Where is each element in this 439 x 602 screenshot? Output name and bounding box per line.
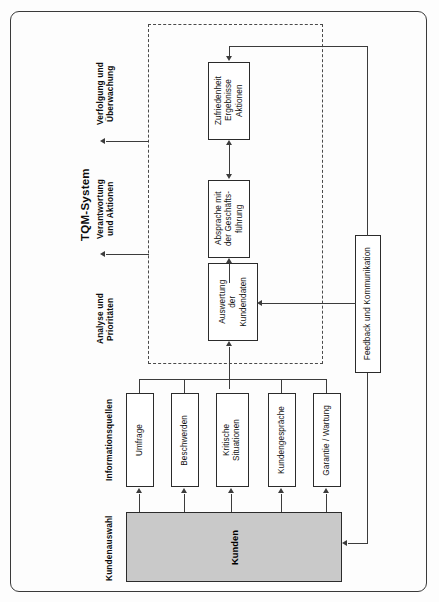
connector-out-verantwortung: [106, 254, 149, 255]
source-box-kundengespraeche[interactable]: Kundengespräche: [268, 393, 296, 487]
source-box-garantie-wartung-label: Garantie / Wartung: [322, 405, 332, 476]
connector-feedback-up: [367, 46, 368, 236]
connector-feedback-top-horizontal: [229, 46, 368, 47]
caption-analyse: Analyse und Prioritäten: [95, 278, 116, 360]
source-box-beschwerden[interactable]: Beschwerden: [171, 393, 199, 487]
arrowhead-left-auswertung: [257, 300, 262, 306]
connector-kunden-kritische: [231, 494, 232, 512]
connector-absprache-zufriedenheit: [229, 145, 230, 177]
source-box-umfrage[interactable]: Umfrage: [126, 393, 154, 487]
process-box-absprache[interactable]: Absprache mit der Geschäfts- führung: [208, 180, 250, 258]
connector-kunden-kundengespraeche: [281, 494, 282, 512]
process-box-absprache-label: Absprache mit der Geschäfts- führung: [214, 191, 245, 246]
arrowhead-left-verantwortung: [100, 251, 105, 257]
process-box-zufriedenheit[interactable]: Zufriedenheit Ergebnisse Aktionen: [208, 62, 250, 140]
arrowhead-up-zufriedenheit: [226, 140, 232, 145]
connector-source-bus: [139, 379, 327, 380]
customer-box-kunden[interactable]: Kunden: [126, 512, 342, 582]
feedback-box-label: Feedback und Kommunikation: [363, 247, 373, 360]
caption-kundenauswahl: Kundenauswahl: [104, 507, 114, 589]
connector-bus-beschwerden: [184, 379, 185, 393]
connector-out-verfolgung: [106, 141, 149, 142]
connector-kunden-beschwerden: [184, 494, 185, 512]
arrowhead-up-garantie: [323, 488, 329, 493]
connector-kunden-garantie: [326, 494, 327, 512]
feedback-box[interactable]: Feedback und Kommunikation: [355, 235, 381, 373]
caption-verfolgung: Verfolgung und Überwachung: [95, 48, 116, 140]
connector-feedback-auswertung: [262, 303, 356, 304]
arrowhead-up-beschwerden: [181, 488, 187, 493]
arrowhead-up-kritische: [228, 488, 234, 493]
arrowhead-up-umfrage: [136, 488, 142, 493]
connector-bus-to-auswertung: [229, 347, 230, 389]
customer-box-kunden-label: Kunden: [229, 530, 240, 565]
arrowhead-left-kunden: [342, 540, 347, 546]
source-box-garantie-wartung[interactable]: Garantie / Wartung: [313, 393, 341, 487]
connector-kunden-umfrage: [139, 494, 140, 512]
arrowhead-into-zufriedenheit: [226, 56, 232, 61]
arrowhead-left-verfolgung: [100, 138, 105, 144]
page-title: TQM-System: [78, 150, 92, 260]
connector-feedback-to-kunden: [348, 543, 368, 544]
arrowhead-up-kundengespraeche: [278, 488, 284, 493]
source-box-beschwerden-label: Beschwerden: [180, 415, 190, 466]
process-box-auswertung[interactable]: Auswertung der Kundendaten: [208, 263, 258, 341]
caption-informationsquellen: Informationsquellen: [104, 388, 114, 492]
connector-bus-kundengespraeche: [281, 379, 282, 393]
connector-auswertung-absprache: [229, 263, 230, 283]
source-box-umfrage-label: Umfrage: [135, 424, 145, 456]
connector-feedback-down: [367, 373, 368, 544]
arrowhead-up-auswertung: [226, 341, 232, 346]
source-box-kundengespraeche-label: Kundengespräche: [277, 406, 287, 474]
process-box-zufriedenheit-label: Zufriedenheit Ergebnisse Aktionen: [214, 76, 245, 125]
connector-bus-garantie: [326, 379, 327, 393]
caption-verantwortung: Verantwortung und Aktionen: [95, 163, 116, 255]
arrowhead-down-absprache: [226, 174, 232, 179]
process-box-auswertung-label: Auswertung der Kundendaten: [218, 277, 249, 327]
source-box-kritische-situationen[interactable]: Kritische Situationen: [216, 393, 249, 487]
arrowhead-up-absprache: [226, 258, 232, 263]
connector-bus-umfrage: [139, 379, 140, 393]
source-box-kritische-situationen-label: Kritische Situationen: [222, 419, 243, 461]
diagram-canvas: TQM-System Verfolgung und Überwachung Ve…: [0, 0, 439, 602]
